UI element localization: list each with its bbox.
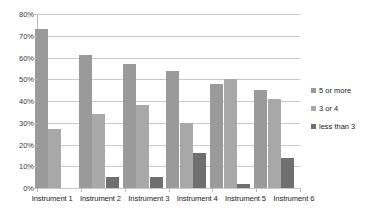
bar (254, 90, 267, 188)
x-axis-tick-mark (300, 188, 301, 192)
x-axis-category-label: Instrument 4 (173, 194, 221, 203)
bar-group (212, 14, 256, 188)
y-axis-tick-label: 0% (0, 184, 34, 193)
plot-area (37, 14, 300, 188)
bar-group (125, 14, 169, 188)
x-axis-tick-mark (37, 188, 38, 192)
y-axis-tick-label: 40% (0, 97, 34, 106)
bar (79, 55, 92, 188)
bar (136, 105, 149, 188)
x-axis-tick-mark (81, 188, 82, 192)
x-axis-category-labels: Instrument 1Instrument 2Instrument 3Inst… (28, 194, 318, 203)
bar-chart: 0%10%20%30%40%50%60%70%80% Instrument 1I… (0, 0, 365, 214)
y-axis-tick-mark (33, 79, 37, 80)
legend-swatch-icon (311, 124, 316, 129)
x-axis-tick-mark (169, 188, 170, 192)
bar-group (37, 14, 81, 188)
bar (166, 71, 179, 188)
y-axis-tick-mark (33, 36, 37, 37)
legend-item[interactable]: less than 3 (311, 122, 355, 131)
x-axis-tick-mark (256, 188, 257, 192)
bar (237, 184, 250, 188)
y-axis-tick-label: 30% (0, 119, 34, 128)
bar (123, 64, 136, 188)
y-axis-tick-mark (33, 14, 37, 15)
y-axis-tick-mark (33, 123, 37, 124)
legend-item-label: 5 or more (319, 86, 351, 95)
chart-legend: 5 or more3 or 4less than 3 (311, 86, 355, 131)
y-axis-tick-label: 60% (0, 54, 34, 63)
x-axis-tick-mark (125, 188, 126, 192)
legend-item[interactable]: 3 or 4 (311, 104, 355, 113)
y-axis-tick-label: 70% (0, 32, 34, 41)
y-axis-tick-label: 10% (0, 162, 34, 171)
x-axis-category-label: Instrument 5 (221, 194, 269, 203)
bar (35, 29, 48, 188)
y-axis-tick-mark (33, 166, 37, 167)
bar (150, 177, 163, 188)
bar (92, 114, 105, 188)
x-axis-category-label: Instrument 1 (28, 194, 76, 203)
y-axis-tick-mark (33, 101, 37, 102)
y-axis-tick-label: 20% (0, 141, 34, 150)
legend-swatch-icon (311, 88, 316, 93)
y-axis-tick-label: 80% (0, 10, 34, 19)
x-axis-category-label: Instrument 2 (76, 194, 124, 203)
y-axis-tick-label: 50% (0, 75, 34, 84)
y-axis-tick-mark (33, 145, 37, 146)
bar (268, 99, 281, 188)
legend-item-label: 3 or 4 (319, 104, 338, 113)
bar (180, 123, 193, 188)
bar (193, 153, 206, 188)
bar (48, 129, 61, 188)
legend-item[interactable]: 5 or more (311, 86, 355, 95)
bar (281, 158, 294, 188)
legend-item-label: less than 3 (319, 122, 355, 131)
legend-swatch-icon (311, 106, 316, 111)
bar (224, 79, 237, 188)
bar-group (81, 14, 125, 188)
bar (210, 84, 223, 188)
bar-group (256, 14, 300, 188)
x-axis-category-label: Instrument 6 (270, 194, 318, 203)
x-axis-category-label: Instrument 3 (125, 194, 173, 203)
bar-group (169, 14, 213, 188)
x-axis-tick-mark (212, 188, 213, 192)
bar (106, 177, 119, 188)
y-axis-tick-mark (33, 58, 37, 59)
